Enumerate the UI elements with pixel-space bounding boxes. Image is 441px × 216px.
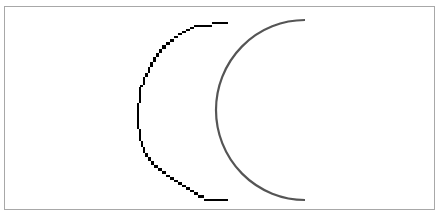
antialiased-arc <box>216 20 305 200</box>
diagram-canvas <box>0 0 441 216</box>
aliased-arc <box>137 22 228 201</box>
